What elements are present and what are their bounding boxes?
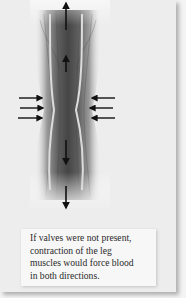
caption-line: contraction of the leg: [30, 245, 151, 258]
caption-line: If valves were not present,: [30, 232, 151, 245]
caption-line: muscles would force blood: [30, 257, 151, 270]
caption-line: in both directions.: [30, 270, 151, 283]
leg-muscle: [30, 0, 110, 210]
figure-panel: If valves were not present, contraction …: [0, 0, 176, 292]
figure-caption: If valves were not present, contraction …: [21, 229, 156, 286]
vein-muscle-illustration: [0, 0, 176, 210]
